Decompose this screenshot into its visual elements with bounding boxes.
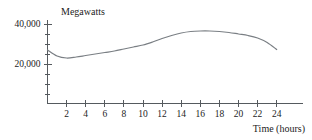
- x-tick-label: 14: [176, 109, 186, 119]
- y-axis-title: Megawatts: [61, 6, 105, 17]
- x-axis-title: Time (hours): [253, 123, 305, 135]
- x-tick-label: 2: [64, 109, 69, 119]
- x-tick-label: 18: [215, 109, 225, 119]
- y-tick-label: 40,000: [14, 19, 40, 29]
- x-tick-label: 4: [83, 109, 88, 119]
- x-tick-label: 10: [138, 109, 148, 119]
- chart-axes: [48, 20, 304, 104]
- y-axis-tick-labels: 20,00040,000: [14, 19, 40, 69]
- x-tick-label: 6: [102, 109, 107, 119]
- line-chart: 20,00040,000 24681012141618202224 Megawa…: [0, 0, 312, 140]
- data-series-line: [48, 31, 277, 58]
- y-tick-label: 20,000: [14, 59, 40, 69]
- x-tick-label: 12: [157, 109, 167, 119]
- x-tick-label: 8: [122, 109, 127, 119]
- x-tick-label: 16: [196, 109, 206, 119]
- x-tick-label: 22: [253, 109, 263, 119]
- x-tick-label: 20: [234, 109, 244, 119]
- chart-figure: 20,00040,000 24681012141618202224 Megawa…: [0, 0, 312, 140]
- x-tick-label: 24: [272, 109, 282, 119]
- x-axis-tick-labels: 24681012141618202224: [64, 109, 281, 119]
